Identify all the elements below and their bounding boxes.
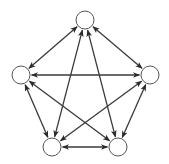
node-bottom-right [109, 138, 127, 156]
node-top [76, 11, 94, 29]
nodes-group [12, 11, 159, 156]
edge-left-bottom-right-arrow [29, 81, 109, 140]
complete-graph-diagram [0, 0, 169, 164]
edge-top-bottom-right-arrow [88, 30, 116, 137]
node-left [12, 66, 30, 84]
edge-top-bottom-left-arrow [55, 30, 83, 137]
edge-right-bottom-left-arrow [60, 81, 141, 141]
edge-top-right-arrow [93, 27, 142, 68]
node-bottom-left [43, 138, 61, 156]
edge-top-left-arrow [29, 27, 77, 68]
edges-group [25, 27, 146, 147]
node-right [141, 66, 159, 84]
